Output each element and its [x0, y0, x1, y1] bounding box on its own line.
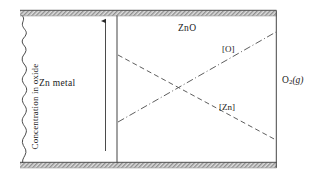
concentration-axis-caption: Concentration in oxide — [31, 52, 40, 162]
zinc-concentration-line — [118, 55, 276, 140]
metal-break-edge — [22, 16, 27, 163]
zinc-curve-label: [Zn] — [219, 103, 235, 112]
gas-region-label: O2(g) — [282, 76, 303, 86]
oxidation-concentration-diagram: Zn metal ZnO [O] [Zn] O2(g) Concentratio… — [0, 0, 320, 179]
bottom-hatched-boundary — [20, 162, 277, 168]
metal-region-label: Zn metal — [39, 79, 75, 89]
gas-label-state: (g) — [292, 75, 303, 85]
top-hatched-boundary — [20, 10, 277, 16]
oxide-region-label: ZnO — [178, 24, 196, 34]
oxygen-curve-label: [O] — [222, 45, 235, 54]
gas-label-element: O — [282, 75, 289, 85]
oxygen-concentration-line — [118, 32, 276, 122]
diagram-canvas — [0, 0, 320, 179]
